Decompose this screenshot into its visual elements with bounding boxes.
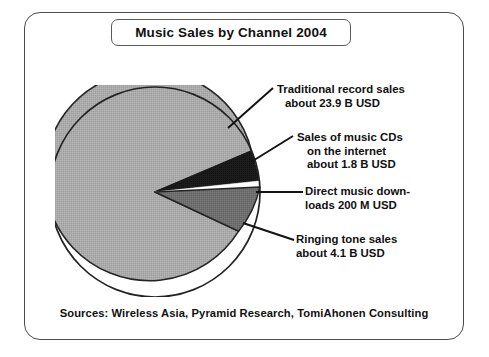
- callout-line-2: loads 200 M USD: [305, 199, 410, 213]
- callout-line-2: about 23.9 B USD: [277, 97, 405, 111]
- chart-title-plate: Music Sales by Channel 2004: [111, 19, 351, 46]
- callout-line-2: about 4.1 B USD: [296, 247, 397, 261]
- callout-line-2: on the internet: [297, 145, 403, 159]
- callout-line-3: about 1.8 B USD: [297, 158, 403, 172]
- callout-traditional-record-sales: Traditional record sales about 23.9 B US…: [277, 83, 405, 110]
- page-title: Music Sales by Channel 2004: [135, 25, 327, 40]
- source-note: Sources: Wireless Asia, Pyramid Research…: [24, 307, 464, 319]
- slide-canvas: Music Sales by Channel 2004: [0, 0, 489, 357]
- callout-line-1: Ringing tone sales: [296, 233, 397, 247]
- callout-internet-cd-sales: Sales of music CDs on the internet about…: [297, 131, 403, 172]
- callout-line-1: Traditional record sales: [277, 83, 405, 97]
- callout-ringing-tone-sales: Ringing tone sales about 4.1 B USD: [296, 233, 397, 260]
- callout-line-1: Sales of music CDs: [297, 131, 403, 145]
- callout-direct-downloads: Direct music down- loads 200 M USD: [305, 185, 410, 212]
- pie-chart: [55, 85, 261, 297]
- callout-line-1: Direct music down-: [305, 185, 410, 199]
